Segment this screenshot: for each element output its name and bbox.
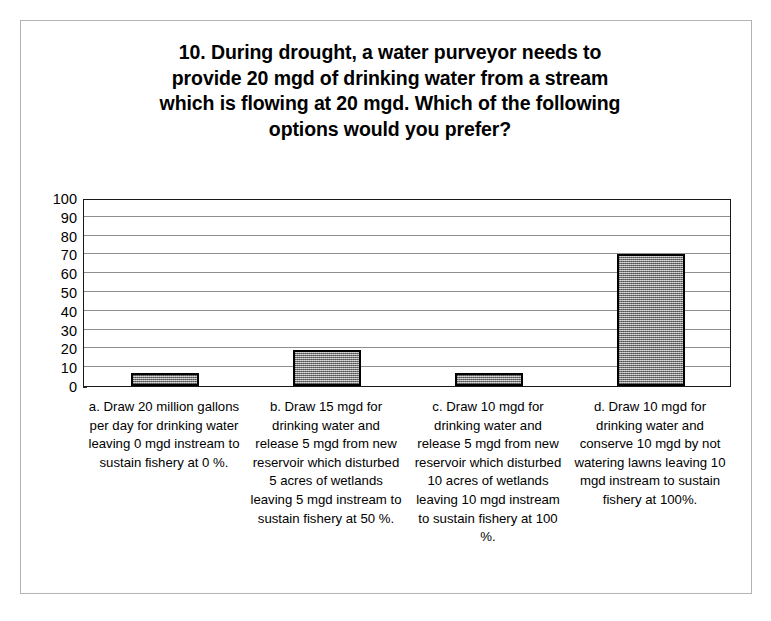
y-axis-tick-label: 80 — [33, 229, 77, 244]
bar-b[interactable] — [293, 350, 361, 386]
x-axis-tick-mark — [570, 386, 571, 387]
y-axis-tick-mark — [83, 387, 87, 388]
y-axis-tick-label: 0 — [33, 380, 77, 395]
bar-slot-c — [408, 200, 570, 386]
chart-title: 10. During drought, a water purveyor nee… — [60, 40, 720, 142]
y-axis-tick-label: 90 — [33, 211, 77, 226]
y-axis-tick-label: 10 — [33, 361, 77, 376]
bar-d[interactable] — [617, 254, 685, 386]
plot-area — [83, 199, 731, 387]
category-label-c: c. Draw 10 mgd for drinking water and re… — [407, 398, 569, 547]
x-axis-category-labels: a. Draw 20 million gallons per day for d… — [83, 398, 731, 578]
y-axis-tick-label: 40 — [33, 305, 77, 320]
slide-canvas: 10. During drought, a water purveyor nee… — [0, 0, 771, 621]
y-axis-tick-label: 70 — [33, 248, 77, 263]
bar-slot-a — [84, 200, 246, 386]
category-label-a: a. Draw 20 million gallons per day for d… — [83, 398, 245, 472]
bar-c[interactable] — [455, 373, 523, 386]
category-label-b: b. Draw 15 mgd for drinking water and re… — [245, 398, 407, 528]
y-axis-tick-label: 100 — [33, 192, 77, 207]
bar-slot-d — [570, 200, 731, 386]
bar-slot-b — [246, 200, 408, 386]
y-axis-labels: 1009080706050403020100 — [33, 190, 77, 396]
x-axis-tick-mark — [246, 386, 247, 387]
y-axis-tick-label: 20 — [33, 342, 77, 357]
y-axis-tick-label: 60 — [33, 267, 77, 282]
category-label-d: d. Draw 10 mgd for drinking water and co… — [569, 398, 731, 510]
y-axis-tick-label: 50 — [33, 286, 77, 301]
y-axis-tick-label: 30 — [33, 323, 77, 338]
plot-wrapper — [83, 199, 731, 387]
bar-a[interactable] — [131, 373, 199, 386]
x-axis-tick-mark — [408, 386, 409, 387]
